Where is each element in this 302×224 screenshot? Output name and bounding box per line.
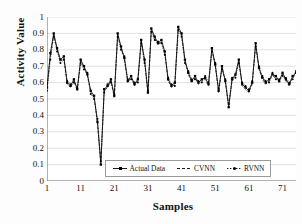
x-tick-label: 71 — [272, 183, 294, 193]
y-tick-label: 0.6 — [24, 78, 44, 87]
y-tick-label: 0.2 — [24, 144, 44, 153]
legend-label: Actual Data — [130, 164, 166, 173]
legend-item: Actual Data — [112, 164, 166, 173]
y-tick-label: 0.5 — [24, 95, 44, 104]
x-tick-label: 21 — [103, 183, 125, 193]
x-tick-label: 41 — [171, 183, 193, 193]
chart-legend: Actual DataCVNNRVNN — [105, 160, 271, 177]
legend-marker-icon — [112, 165, 128, 172]
plot-area — [47, 17, 296, 181]
x-tick-label: 61 — [238, 183, 260, 193]
series-rvnn — [47, 29, 296, 162]
y-tick-label: 0.4 — [24, 111, 44, 120]
x-tick-label: 11 — [70, 183, 92, 193]
chart-figure: Activity Value 00.10.20.30.40.50.60.70.8… — [0, 0, 302, 224]
legend-marker-icon — [176, 165, 192, 172]
series-cvnn — [47, 28, 296, 162]
x-axis-tick-labels: 111213141516171 — [0, 183, 302, 195]
x-tick-label: 31 — [137, 183, 159, 193]
chart-canvas — [47, 17, 296, 181]
grid-lines — [47, 17, 296, 165]
x-axis-title: Samples — [47, 200, 299, 212]
y-tick-label: 1 — [24, 13, 44, 22]
legend-marker-icon — [226, 165, 242, 172]
legend-label: RVNN — [244, 164, 264, 173]
x-tick-label: 1 — [36, 183, 58, 193]
y-tick-label: 0.1 — [24, 160, 44, 169]
series-actual-data — [47, 26, 296, 166]
y-tick-label: 0.3 — [24, 127, 44, 136]
x-tick-label: 51 — [204, 183, 226, 193]
legend-item: RVNN — [226, 164, 264, 173]
y-tick-label: 0.8 — [24, 45, 44, 54]
legend-label: CVNN — [194, 164, 215, 173]
y-tick-label: 0.9 — [24, 29, 44, 38]
y-tick-label: 0.7 — [24, 62, 44, 71]
legend-item: CVNN — [176, 164, 215, 173]
